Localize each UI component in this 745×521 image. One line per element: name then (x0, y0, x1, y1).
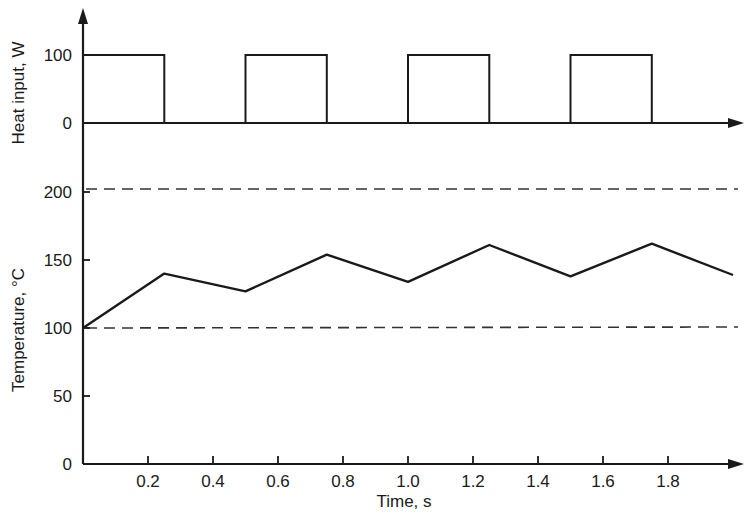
x-tick-label: 1.0 (396, 472, 420, 491)
temperature-tick-label: 0 (63, 455, 72, 474)
temperature-tick-label: 50 (53, 387, 72, 406)
x-tick-label: 1.8 (656, 472, 680, 491)
temperature-y-axis-title: Temperature, °C (9, 268, 28, 392)
x-tick-label: 1.6 (591, 472, 615, 491)
temperature-series (83, 244, 733, 328)
time-axis: 0.20.40.60.81.01.21.41.61.8 (83, 456, 744, 491)
y-axis-arrow-icon (78, 8, 88, 24)
heat-tick-0: 0 (63, 114, 72, 133)
temperature-tick-label: 150 (44, 251, 72, 270)
x-tick-label: 0.8 (331, 472, 355, 491)
heat-tick-100: 100 (44, 46, 72, 65)
x-tick-label: 1.2 (461, 472, 485, 491)
chart: 0.20.40.60.81.01.21.41.61.8 050100150200… (0, 0, 745, 521)
time-axis-arrow-icon (728, 459, 744, 469)
heat-y-axis-title: Heat input, W (9, 42, 28, 145)
x-tick-label: 0.4 (201, 472, 225, 491)
x-tick-label: 0.6 (266, 472, 290, 491)
heat-input-series (83, 55, 733, 123)
x-tick-label: 0.2 (136, 472, 160, 491)
x-axis-title: Time, s (376, 492, 431, 511)
temperature-tick-label: 100 (44, 319, 72, 338)
x-tick-label: 1.4 (526, 472, 550, 491)
reference-line-100 (86, 327, 738, 328)
temperature-tick-label: 200 (44, 183, 72, 202)
